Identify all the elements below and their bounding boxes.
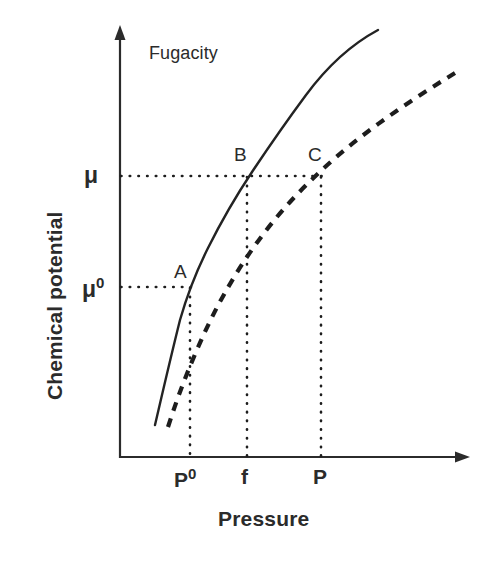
x-axis-label: Pressure — [218, 508, 310, 529]
data-point-label-c: C — [308, 145, 322, 164]
x-tick-label-p-naught: P0 — [174, 466, 196, 490]
x-tick-label-p: P — [313, 466, 327, 487]
guide-lines-group — [121, 176, 322, 456]
p-naught-base: P — [174, 468, 188, 491]
y-tick-label-mu-naught: μ0 — [82, 275, 104, 301]
axis-group — [115, 25, 471, 463]
data-curves-group — [155, 30, 455, 427]
data-point-label-a: A — [174, 262, 187, 281]
y-tick-label-mu: μ — [84, 164, 98, 187]
x-tick-label-f: f — [241, 466, 248, 487]
mu-naught-base: μ — [82, 276, 96, 302]
mu-naught-superscript: 0 — [96, 274, 104, 291]
y-axis-label: Chemical potential — [44, 100, 65, 400]
data-point-label-b: B — [234, 145, 247, 164]
x-axis-arrow-icon — [455, 452, 470, 463]
fugacity-chemical-potential-figure: Chemical potential Pressure Fugacity μ μ… — [0, 0, 492, 563]
p-naught-superscript: 0 — [188, 465, 196, 482]
curve-real-dashed — [168, 73, 455, 427]
y-axis-arrow-icon — [115, 25, 126, 40]
fugacity-annotation: Fugacity — [149, 44, 218, 62]
